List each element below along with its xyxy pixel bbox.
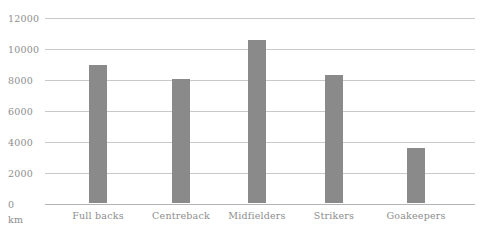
y-tick-label: 4000 xyxy=(8,136,33,147)
axis-baseline xyxy=(45,204,475,205)
bar-centreback xyxy=(172,79,190,203)
bar-strikers xyxy=(325,75,343,203)
y-axis-labels: 12000 10000 8000 6000 4000 2000 0 xyxy=(0,0,45,235)
y-tick-label: 0 xyxy=(8,198,14,209)
y-tick-label: 12000 xyxy=(8,12,39,23)
y-tick-label: 10000 xyxy=(8,43,39,54)
x-tick-label-centreback: Centreback xyxy=(152,210,210,221)
x-tick-label-full-backs: Full backs xyxy=(72,210,124,221)
x-tick-label-midfielders: Midfielders xyxy=(228,210,285,221)
bar-goakeepers xyxy=(407,148,425,203)
gridline-12000 xyxy=(45,18,475,19)
x-tick-label-strikers: Strikers xyxy=(314,210,354,221)
y-tick-label: 6000 xyxy=(8,105,33,116)
bar-midfielders xyxy=(248,40,266,203)
bar-chart: 12000 10000 8000 6000 4000 2000 0 km Ful… xyxy=(0,0,480,235)
x-axis-labels: Full backs Centreback Midfielders Strike… xyxy=(0,210,480,230)
x-tick-label-goakeepers: Goakeepers xyxy=(386,210,445,221)
bar-full-backs xyxy=(89,65,107,203)
plot-area xyxy=(45,18,475,204)
y-tick-label: 8000 xyxy=(8,74,33,85)
y-tick-label: 2000 xyxy=(8,167,33,178)
